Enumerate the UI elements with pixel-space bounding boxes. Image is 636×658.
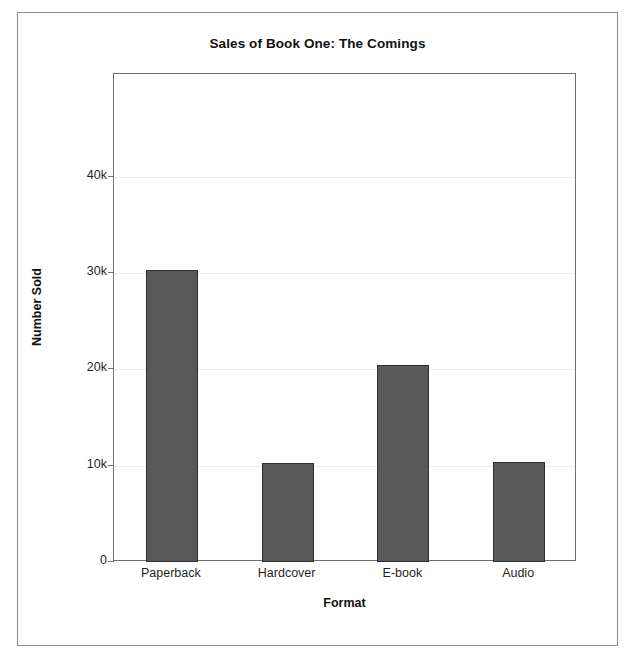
y-tick-label: 40k <box>61 169 107 182</box>
x-tick-label: Paperback <box>141 566 201 580</box>
y-axis-tick-labels: 010k20k30k40k <box>55 73 107 561</box>
bar-hardcover <box>262 463 314 562</box>
y-tick-mark <box>108 465 114 466</box>
x-tick-label: E-book <box>383 566 423 580</box>
y-tick-label: 30k <box>61 265 107 278</box>
y-tick-mark <box>108 176 114 177</box>
plot-area <box>113 73 576 561</box>
y-tick-label: 10k <box>61 458 107 471</box>
gridline <box>114 177 575 178</box>
x-axis-label: Format <box>113 596 576 610</box>
chart-figure: Sales of Book One: The Comings Number So… <box>0 0 636 658</box>
x-tick-label: Audio <box>502 566 534 580</box>
y-tick-label: 0 <box>61 554 107 567</box>
x-axis-tick-labels: PaperbackHardcoverE-bookAudio <box>113 566 576 588</box>
bar-audio <box>493 462 545 562</box>
y-tick-label: 20k <box>61 361 107 374</box>
x-tick-label: Hardcover <box>258 566 316 580</box>
y-tick-mark <box>108 272 114 273</box>
y-tick-mark <box>108 368 114 369</box>
bar-paperback <box>146 270 198 562</box>
y-tick-mark <box>108 561 114 562</box>
y-axis-label: Number Sold <box>30 247 44 367</box>
bar-e-book <box>377 365 429 562</box>
chart-title: Sales of Book One: The Comings <box>17 36 618 51</box>
plot-inner-surface <box>114 74 575 560</box>
